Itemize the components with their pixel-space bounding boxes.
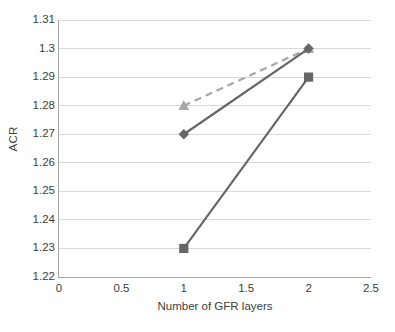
x-tick-label: 2 (289, 281, 329, 295)
data-point-square (179, 244, 188, 253)
x-tick-label: 0.5 (101, 281, 141, 295)
y-tick-label: 1.3 (20, 43, 55, 55)
x-tick-label: 1.5 (226, 281, 266, 295)
x-axis-title: Number of GFR layers (59, 300, 371, 312)
y-tick-label: 1.31 (20, 14, 55, 26)
y-tick-label: 1.29 (20, 71, 55, 83)
data-point-square (304, 73, 313, 82)
y-axis-title-label: ACR (7, 126, 19, 151)
x-axis-tick-labels: 00.511.522.5 (0, 281, 395, 297)
y-tick-label: 1.27 (20, 128, 55, 140)
y-tick-label: 1.25 (20, 186, 55, 198)
x-tick-label: 2.5 (351, 281, 391, 295)
x-tick-label: 0 (39, 281, 79, 295)
plot-svg (59, 20, 371, 277)
y-tick-label: 1.28 (20, 100, 55, 112)
y-tick-label: 1.26 (20, 157, 55, 169)
plot-area (59, 20, 371, 277)
x-tick-label: 1 (164, 281, 204, 295)
series-series-1-dashed-triangle (178, 43, 314, 110)
y-tick-label: 1.23 (20, 243, 55, 255)
series-series-2-solid-diamond (179, 43, 314, 139)
y-tick-label: 1.24 (20, 214, 55, 226)
chart-container: ACR 1.221.231.241.251.261.271.281.291.31… (0, 0, 395, 332)
series-line (184, 49, 309, 135)
